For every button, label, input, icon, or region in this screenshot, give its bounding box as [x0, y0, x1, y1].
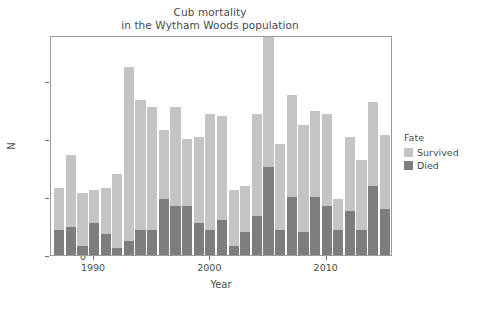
bar-segment-survived [322, 114, 332, 207]
bar-segment-survived [263, 37, 273, 167]
y-tick-mark-75 [45, 82, 49, 83]
bar-segment-died [252, 216, 262, 255]
bar-segment-died [356, 230, 366, 255]
bar-segment-survived [252, 114, 262, 216]
bar-segment-died [287, 197, 297, 255]
bar-segment-survived [275, 144, 285, 230]
bar-1995 [147, 107, 157, 255]
legend-item-survived[interactable]: Survived [404, 146, 476, 158]
bar-segment-survived [217, 116, 227, 220]
bar-segment-survived [124, 67, 134, 241]
bar-segment-survived [368, 102, 378, 185]
bar-segment-survived [229, 190, 239, 246]
bar-segment-survived [287, 95, 297, 197]
bar-1994 [135, 100, 145, 255]
bar-segment-survived [310, 111, 320, 197]
bar-segment-died [170, 206, 180, 255]
bar-segment-died [229, 246, 239, 255]
x-axis-title: Year [50, 279, 392, 290]
bar-segment-survived [147, 107, 157, 230]
bar-segment-died [101, 234, 111, 255]
x-tick-label-1990: 1990 [68, 262, 118, 273]
bar-segment-died [333, 230, 343, 255]
bar-segment-survived [66, 155, 76, 227]
plot-panel [50, 36, 392, 256]
bar-2000 [205, 114, 215, 255]
bar-segment-died [275, 230, 285, 255]
bar-segment-survived [170, 107, 180, 207]
bar-segment-died [54, 230, 64, 255]
bar-1989 [77, 192, 87, 255]
bar-segment-died [298, 232, 308, 255]
bar-2010 [322, 114, 332, 255]
bar-2011 [333, 199, 343, 255]
bar-2008 [298, 125, 308, 255]
bar-2013 [356, 160, 366, 255]
bar-segment-survived [101, 188, 111, 234]
legend-label: Died [417, 160, 439, 171]
bar-segment-died [112, 248, 122, 255]
chart-title-line-2: in the Wytham Woods population [0, 19, 420, 32]
bar-1999 [194, 137, 204, 255]
bar-segment-died [322, 206, 332, 255]
legend-label: Survived [417, 147, 459, 158]
bar-segment-survived [182, 139, 192, 206]
bar-segment-died [263, 167, 273, 255]
bar-segment-survived [345, 137, 355, 211]
bar-2005 [263, 37, 273, 255]
y-tick-mark-0 [45, 256, 49, 257]
bar-segment-died [66, 227, 76, 255]
bar-segment-died [159, 199, 169, 255]
plot-area [51, 37, 391, 255]
legend-swatch-died-icon [404, 161, 413, 170]
bar-2012 [345, 137, 355, 255]
bar-segment-died [217, 220, 227, 255]
legend-items: SurvivedDied [404, 146, 476, 171]
bar-segment-survived [333, 199, 343, 229]
bar-segment-died [380, 209, 390, 255]
bar-1998 [182, 139, 192, 255]
chart-title-line-1: Cub mortality [0, 6, 420, 19]
bar-segment-died [89, 223, 99, 255]
bar-1996 [159, 130, 169, 255]
x-tick-mark-1990 [93, 256, 94, 260]
chart-title: Cub mortality in the Wytham Woods popula… [0, 6, 420, 32]
bar-2006 [275, 144, 285, 255]
x-tick-label-2000: 2000 [184, 262, 234, 273]
y-tick-mark-25 [45, 198, 49, 199]
legend-swatch-survived-icon [404, 148, 413, 157]
bar-segment-died [135, 230, 145, 255]
x-tick-label-2010: 2010 [301, 262, 351, 273]
bar-segment-died [194, 223, 204, 255]
bar-segment-survived [89, 190, 99, 222]
bar-segment-survived [159, 130, 169, 199]
bar-1987 [54, 188, 64, 255]
bar-segment-died [124, 241, 134, 255]
bar-segment-survived [380, 135, 390, 209]
bar-segment-survived [205, 114, 215, 230]
bar-2001 [217, 116, 227, 255]
bar-segment-survived [135, 100, 145, 230]
bar-2009 [310, 111, 320, 255]
bar-segment-died [205, 230, 215, 255]
bar-segment-died [77, 246, 87, 255]
y-tick-mark-50 [45, 140, 49, 141]
chart-figure: Cub mortality in the Wytham Woods popula… [0, 0, 478, 315]
bar-segment-died [345, 211, 355, 255]
bar-1997 [170, 107, 180, 255]
y-axis-title: N [6, 142, 17, 149]
bar-2003 [240, 186, 250, 255]
bar-1993 [124, 67, 134, 255]
bar-segment-survived [194, 137, 204, 223]
bar-2007 [287, 95, 297, 255]
bar-segment-survived [298, 125, 308, 232]
bar-1991 [101, 188, 111, 255]
bar-segment-died [182, 206, 192, 255]
bar-1990 [89, 190, 99, 255]
bar-1992 [112, 174, 122, 255]
bar-segment-survived [240, 186, 250, 232]
bar-segment-survived [54, 188, 64, 230]
bar-2014 [368, 102, 378, 255]
legend-title: Fate [404, 132, 476, 143]
legend-item-died[interactable]: Died [404, 159, 476, 171]
